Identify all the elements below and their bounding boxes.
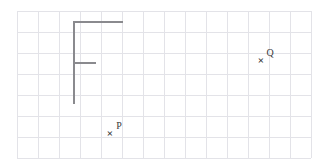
point-p-cross-icon: × [107,128,113,139]
point-q-label: Q [266,48,273,58]
grid-diagram-canvas: ×P×Q [0,0,329,165]
point-p-label: P [116,121,122,131]
f-shape [0,0,329,165]
point-q-cross-icon: × [258,55,264,66]
